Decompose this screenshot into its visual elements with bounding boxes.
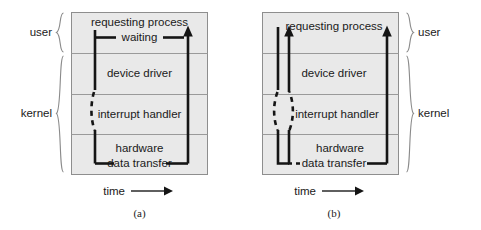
panel-b-row-label-hardware: hardware bbox=[316, 142, 364, 154]
panel-a-caption: (a) bbox=[133, 207, 146, 220]
io-handling-figure: requesting process device driver interru… bbox=[0, 0, 481, 230]
panel-b: requesting process device driver interru… bbox=[263, 13, 450, 221]
panel-a-row-label-hardware: hardware bbox=[116, 142, 164, 154]
panel-a-group-label-user: user bbox=[30, 26, 53, 38]
panel-a-row-label-device-driver: device driver bbox=[107, 67, 172, 79]
panel-b-brace-kernel bbox=[407, 56, 414, 172]
figure-canvas: requesting process device driver interru… bbox=[0, 0, 481, 230]
panel-b-axis-label-time: time bbox=[294, 185, 316, 197]
panel-b-row-label-device-driver: device driver bbox=[301, 67, 366, 79]
panel-a-axis-label-time: time bbox=[103, 185, 125, 197]
panel-a-row-label-requesting-process: requesting process bbox=[91, 16, 188, 28]
panel-a-row-label-interrupt-handler: interrupt handler bbox=[98, 108, 182, 120]
panel-b-brace-user bbox=[407, 13, 414, 52]
panel-b-axis-arrowhead bbox=[355, 187, 364, 196]
panel-b-group-label-kernel: kernel bbox=[418, 107, 449, 119]
panel-b-caption: (b) bbox=[328, 207, 341, 220]
panel-a-axis-arrowhead bbox=[164, 187, 173, 196]
panel-a-group-label-kernel: kernel bbox=[21, 107, 52, 119]
panel-a-brace-kernel bbox=[57, 56, 64, 172]
panel-b-row-label-interrupt-handler: interrupt handler bbox=[295, 108, 379, 120]
panel-b-group-label-user: user bbox=[418, 26, 441, 38]
panel-b-annotation-data-transfer: data transfer bbox=[302, 157, 367, 169]
panel-a-annotation-data-transfer: data transfer bbox=[107, 157, 172, 169]
panel-a: requesting process device driver interru… bbox=[21, 13, 208, 221]
panel-a-annotation-waiting: waiting bbox=[121, 31, 158, 43]
panel-a-brace-user bbox=[57, 13, 64, 52]
panel-b-row-label-requesting-process: requesting process bbox=[285, 20, 382, 32]
